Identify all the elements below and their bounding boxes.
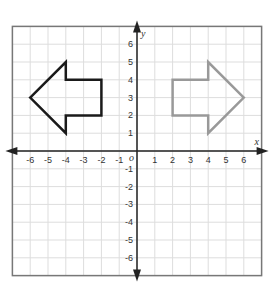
x-tick-label: 2 bbox=[170, 155, 175, 165]
y-tick-label: 4 bbox=[128, 75, 133, 85]
y-tick-label: -2 bbox=[125, 182, 133, 192]
y-tick-label: 3 bbox=[128, 93, 133, 103]
y-tick-label: 5 bbox=[128, 57, 133, 67]
y-tick-label: -6 bbox=[125, 253, 133, 263]
x-tick-label: -4 bbox=[62, 155, 70, 165]
y-tick-label: 1 bbox=[128, 128, 133, 138]
y-axis-label: y bbox=[140, 28, 146, 39]
x-tick-label: 4 bbox=[206, 155, 211, 165]
axes bbox=[5, 20, 268, 281]
x-tick-label: -1 bbox=[115, 155, 123, 165]
y-tick-label: -1 bbox=[125, 164, 133, 174]
y-tick-label: -4 bbox=[125, 217, 133, 227]
y-tick-label: -3 bbox=[125, 199, 133, 209]
x-axis-left-arrow-icon bbox=[5, 147, 17, 155]
x-tick-label: -5 bbox=[44, 155, 52, 165]
y-tick-label: 2 bbox=[128, 110, 133, 120]
x-tick-label: 3 bbox=[188, 155, 193, 165]
origin-label: o bbox=[129, 152, 134, 163]
x-tick-label: 5 bbox=[223, 155, 228, 165]
x-tick-label: 1 bbox=[152, 155, 157, 165]
x-tick-label: -3 bbox=[80, 155, 88, 165]
x-tick-label: -2 bbox=[97, 155, 105, 165]
y-tick-label: -5 bbox=[125, 235, 133, 245]
x-axis-right-arrow-icon bbox=[257, 147, 269, 155]
x-tick-label: -6 bbox=[26, 155, 34, 165]
y-tick-label: 6 bbox=[128, 39, 133, 49]
x-axis-label: x bbox=[253, 136, 259, 147]
x-tick-label: 6 bbox=[241, 155, 246, 165]
coordinate-plane: -6-5-4-3-2-1123456-6-5-4-3-2-1123456 x y… bbox=[0, 0, 275, 288]
